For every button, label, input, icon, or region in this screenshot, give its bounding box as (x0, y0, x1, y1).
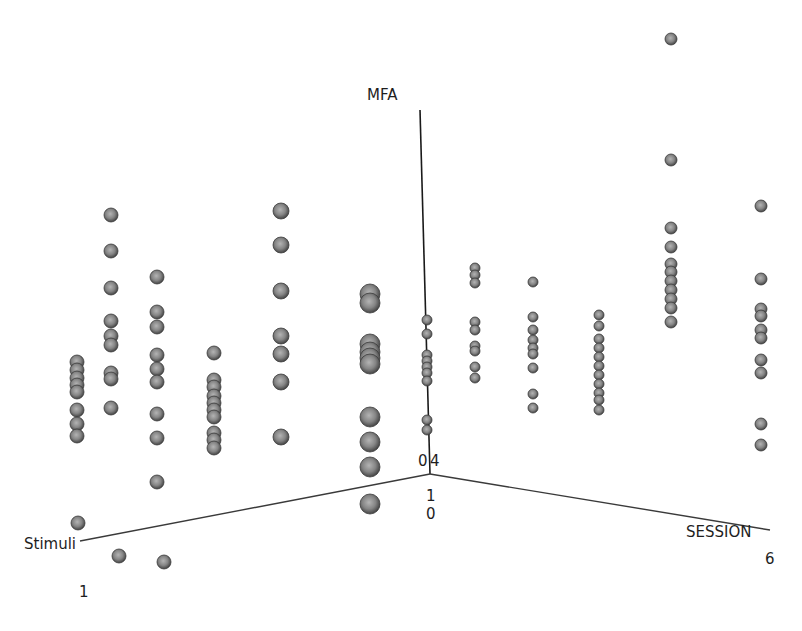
data-point-sphere (150, 475, 164, 489)
data-point-sphere (528, 389, 538, 399)
data-point-sphere (528, 349, 538, 359)
data-point-sphere (104, 281, 118, 295)
data-point-sphere (70, 429, 84, 443)
data-point-sphere (273, 328, 289, 344)
data-point-sphere (150, 270, 164, 284)
data-point-sphere (104, 401, 118, 415)
data-point-sphere (755, 273, 767, 285)
data-point-sphere (755, 332, 767, 344)
data-point-sphere (150, 362, 164, 376)
data-point-sphere (207, 410, 221, 424)
mfa-tick-zero: 0 (418, 454, 428, 469)
data-point-sphere (150, 407, 164, 421)
data-point-sphere (104, 372, 118, 386)
data-point-sphere (665, 302, 677, 314)
data-point-sphere (150, 320, 164, 334)
data-point-sphere (422, 425, 432, 435)
data-points (70, 33, 767, 569)
session-axis-line (430, 474, 770, 530)
point-column-c15 (157, 555, 171, 569)
data-point-sphere (360, 494, 380, 514)
data-point-sphere (594, 361, 604, 371)
data-point-sphere (360, 293, 380, 313)
data-point-sphere (273, 346, 289, 362)
mfa-tick-four: 4 (430, 454, 440, 469)
data-point-sphere (273, 283, 289, 299)
data-point-sphere (665, 241, 677, 253)
point-column-c2 (104, 208, 118, 415)
data-point-sphere (150, 375, 164, 389)
data-point-sphere (150, 305, 164, 319)
data-point-sphere (422, 376, 432, 386)
session-tick-end: 6 (765, 552, 775, 567)
data-point-sphere (755, 200, 767, 212)
data-point-sphere (150, 348, 164, 362)
point-column-c13 (71, 516, 85, 530)
data-point-sphere (422, 315, 432, 325)
data-point-sphere (360, 457, 380, 477)
data-point-sphere (207, 441, 221, 455)
data-point-sphere (594, 395, 604, 405)
data-point-sphere (594, 352, 604, 362)
point-column-c3 (150, 270, 164, 489)
data-point-sphere (422, 329, 432, 339)
data-point-sphere (470, 325, 480, 335)
data-point-sphere (755, 367, 767, 379)
mfa-axis-label: MFA (367, 88, 397, 103)
point-column-c1 (70, 355, 84, 443)
data-point-sphere (528, 363, 538, 373)
data-point-sphere (594, 405, 604, 415)
data-point-sphere (112, 549, 126, 563)
data-point-sphere (422, 415, 432, 425)
data-point-sphere (665, 33, 677, 45)
point-column-c8 (470, 263, 480, 383)
point-column-c12 (755, 200, 767, 451)
data-point-sphere (665, 154, 677, 166)
data-point-sphere (150, 431, 164, 445)
stimuli-axis-label: Stimuli (24, 537, 76, 552)
scatter-3d-plot (0, 0, 802, 631)
point-column-c7 (422, 315, 432, 435)
data-point-sphere (665, 222, 677, 234)
data-point-sphere (360, 407, 380, 427)
point-column-c14 (112, 549, 126, 563)
data-point-sphere (665, 316, 677, 328)
point-column-c11 (665, 33, 677, 328)
data-point-sphere (273, 203, 289, 219)
point-column-c10 (594, 310, 604, 415)
data-point-sphere (104, 244, 118, 258)
data-point-sphere (273, 429, 289, 445)
point-column-c6 (360, 284, 380, 514)
data-point-sphere (528, 403, 538, 413)
data-point-sphere (207, 346, 221, 360)
data-point-sphere (157, 555, 171, 569)
data-point-sphere (755, 310, 767, 322)
stimuli-tick-end: 1 (79, 585, 89, 600)
data-point-sphere (360, 354, 380, 374)
data-point-sphere (470, 373, 480, 383)
data-point-sphere (594, 379, 604, 389)
point-column-c9 (528, 277, 538, 413)
point-column-c4 (207, 346, 221, 455)
origin-tick-zero: 0 (426, 507, 436, 522)
data-point-sphere (470, 346, 480, 356)
data-point-sphere (360, 432, 380, 452)
data-point-sphere (470, 362, 480, 372)
data-point-sphere (528, 312, 538, 322)
session-axis-label: SESSION (686, 525, 752, 540)
data-point-sphere (594, 370, 604, 380)
data-point-sphere (71, 516, 85, 530)
data-point-sphere (528, 325, 538, 335)
data-point-sphere (70, 385, 84, 399)
data-point-sphere (104, 338, 118, 352)
data-point-sphere (273, 237, 289, 253)
data-point-sphere (594, 321, 604, 331)
origin-tick-one: 1 (426, 489, 436, 504)
data-point-sphere (104, 208, 118, 222)
data-point-sphere (70, 403, 84, 417)
data-point-sphere (755, 354, 767, 366)
data-point-sphere (273, 374, 289, 390)
point-column-c5 (273, 203, 289, 445)
data-point-sphere (594, 310, 604, 320)
data-point-sphere (755, 439, 767, 451)
